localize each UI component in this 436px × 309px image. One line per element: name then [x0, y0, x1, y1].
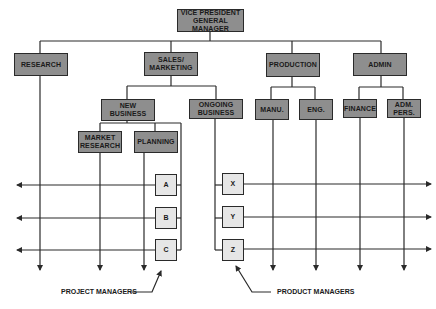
- product-manager-y-box: Y: [222, 206, 244, 228]
- product-managers-annotation: PRODUCT MANAGERS: [277, 288, 354, 295]
- new-business-box: NEW BUSINESS: [101, 99, 155, 121]
- project-manager-c-box: C: [155, 239, 177, 261]
- finance-box: FINANCE: [343, 99, 377, 118]
- connector-lines: [0, 0, 436, 309]
- admin-box: ADMIN: [353, 53, 407, 76]
- product-manager-x-box: X: [222, 173, 244, 195]
- planning-box: PLANNING: [134, 131, 178, 153]
- market-research-box: MARKET RESEARCH: [78, 131, 122, 153]
- product-manager-z-box: Z: [222, 239, 244, 261]
- research-box: RESEARCH: [14, 53, 68, 76]
- project-manager-a-box: A: [155, 174, 177, 196]
- manufacturing-box: MANU.: [255, 99, 289, 120]
- project-managers-annotation: PROJECT MANAGERS: [61, 288, 137, 295]
- vice-president-box: VICE PRESIDENT GENERAL MANAGER: [177, 9, 244, 32]
- ongoing-business-box: ONGOING BUSINESS: [189, 99, 243, 119]
- project-manager-b-box: B: [155, 207, 177, 229]
- admin-personnel-box: ADM. PERS.: [387, 99, 421, 118]
- production-box: PRODUCTION: [266, 53, 320, 77]
- engineering-box: ENG.: [299, 99, 333, 120]
- sales-marketing-box: SALES/ MARKETING: [144, 52, 198, 76]
